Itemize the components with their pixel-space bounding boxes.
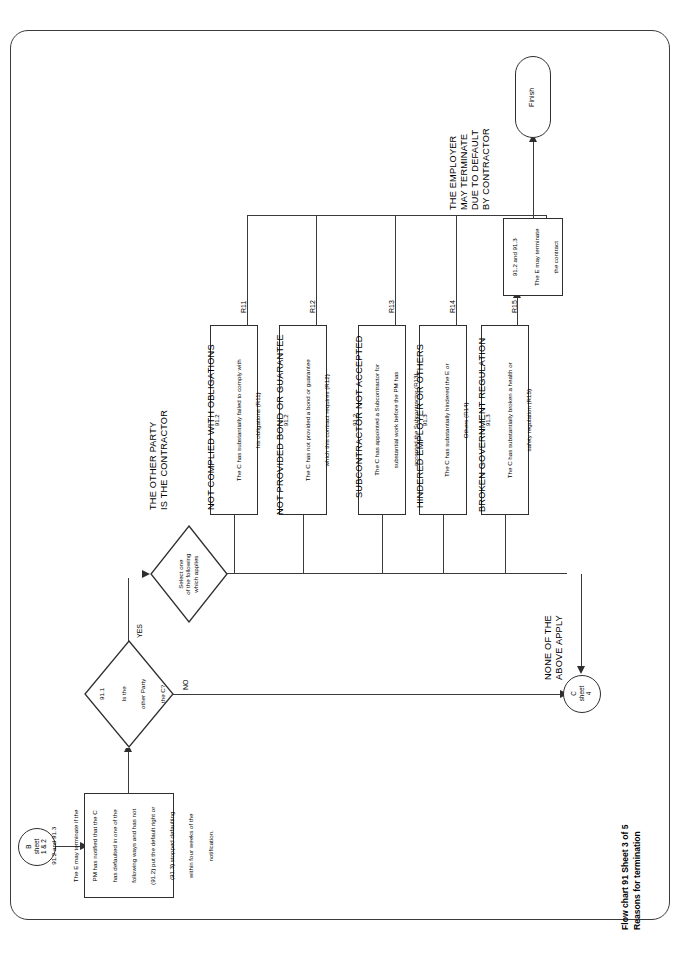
node-reason-r14: 91.3 The C has substantially hindered th… bbox=[419, 325, 467, 515]
label-none-of-the-above: NONE OF THE ABOVE APPLY bbox=[543, 615, 565, 680]
node-intro: 91.2 and 91.3 The E may terminate if the… bbox=[84, 793, 174, 898]
label-no: NO bbox=[182, 680, 190, 691]
page-caption: Flow chart 91 Sheet 3 of 5 Reasons for t… bbox=[620, 824, 643, 930]
decision-select-line1: Select one bbox=[178, 559, 185, 588]
r11-body: The C has substantially failed to comply… bbox=[235, 359, 261, 481]
node-intro-clause: 91.2 and 91.3 bbox=[50, 827, 57, 865]
node-finish-label: Finish bbox=[516, 57, 550, 137]
node-reason-r12-label: 91.2 The C has not provided a bond or gu… bbox=[280, 326, 326, 514]
heading-r13: SUBCONTRACTOR NOT ACCEPTED bbox=[354, 335, 365, 498]
decision-select-line3: which applies bbox=[193, 555, 200, 592]
label-other-party-is-contractor: THE OTHER PARTY IS THE CONTRACTOR bbox=[148, 410, 170, 510]
page-frame bbox=[10, 30, 670, 920]
bus-select-to-reasons bbox=[227, 573, 567, 574]
connector-c: C sheet 4 bbox=[563, 675, 601, 713]
heading-r14: HINDERED EMPLOYER OR OTHERS bbox=[415, 344, 426, 508]
finish-text: Finish bbox=[529, 87, 538, 106]
node-finish: Finish bbox=[515, 56, 551, 138]
node-decision-select: Select one of the following which applie… bbox=[150, 525, 228, 623]
node-terminate: 91.2 and 91.3 The E may terminate the co… bbox=[503, 218, 563, 296]
arrow-none-into-connector-c bbox=[577, 666, 585, 674]
r14-body: The C has substantially hindered the E o… bbox=[444, 363, 470, 477]
link-intro-to-decision bbox=[128, 748, 129, 794]
r15-body: The C has substantially broken a health … bbox=[506, 362, 532, 478]
arrow-yes-to-select bbox=[142, 570, 150, 578]
caption-line2: Reasons for termination bbox=[632, 831, 642, 930]
link-no-branch bbox=[173, 694, 565, 695]
flowchart-page: B sheet 1 & 2 91.2 and 91.3 The E may te… bbox=[0, 0, 700, 980]
link-terminate-to-finish bbox=[533, 140, 534, 219]
connector-c-line2: sheet bbox=[578, 686, 585, 702]
link-yes-branch bbox=[128, 578, 129, 641]
connector-b-line2: sheet bbox=[33, 839, 40, 855]
terminate-body: The E may terminate the contract bbox=[534, 228, 560, 285]
node-reason-r15: 91.3 The C has substantially broken a he… bbox=[481, 325, 529, 515]
node-reason-r13: 91.2 The C has appointed a Subcontractor… bbox=[358, 325, 406, 515]
node-reason-r13-label: 91.2 The C has appointed a Subcontractor… bbox=[359, 326, 405, 514]
link-none-to-connector-c bbox=[581, 574, 582, 671]
connector-b-id: B bbox=[25, 845, 32, 849]
node-reason-r12: 91.2 The C has not provided a bond or gu… bbox=[279, 325, 327, 515]
decision-party-body: Is the other Party the C? bbox=[120, 679, 165, 709]
node-terminate-label: 91.2 and 91.3 The E may terminate the co… bbox=[504, 219, 562, 295]
connector-c-line3: 4 bbox=[586, 692, 593, 696]
label-employer-may-terminate: THE EMPLOYER MAY TERMINATE DUE TO DEFAUL… bbox=[448, 128, 491, 210]
node-reason-r14-label: 91.3 The C has substantially hindered th… bbox=[420, 326, 466, 514]
terminate-clause: 91.2 and 91.3 bbox=[512, 238, 519, 276]
label-yes: YES bbox=[136, 624, 144, 638]
node-reason-r15-label: 91.3 The C has substantially broken a he… bbox=[482, 326, 528, 514]
connector-c-id: C bbox=[570, 692, 577, 697]
collector-stem-r13 bbox=[395, 215, 396, 326]
collector-stem-r12 bbox=[316, 215, 317, 326]
decision-party-clause: 91.1 bbox=[98, 688, 105, 700]
heading-r12: NOT PROVIDED BOND OR GUARANTEE bbox=[275, 334, 286, 515]
node-intro-label: 91.2 and 91.3 The E may terminate if the… bbox=[85, 794, 173, 897]
node-decision-select-label: Select one of the following which applie… bbox=[150, 525, 228, 623]
decision-select-line2: of the following bbox=[185, 553, 192, 594]
connector-c-label: C sheet 4 bbox=[564, 676, 600, 712]
node-decision-party: 91.1 Is the other Party the C? bbox=[84, 640, 174, 748]
r12-body: The C has not provided a bond or guarant… bbox=[304, 359, 330, 481]
caption-line1: Flow chart 91 Sheet 3 of 5 bbox=[620, 824, 630, 930]
heading-r15: BROKEN GOVERNMENT REGULATION bbox=[477, 338, 488, 512]
heading-r11: NOT COMPLIED WITH OBLIGATIONS bbox=[206, 344, 217, 510]
collector-stem-r11 bbox=[247, 215, 248, 326]
node-decision-party-label: 91.1 Is the other Party the C? bbox=[84, 640, 174, 748]
node-reason-r11-label: 91.2 The C has substantially failed to c… bbox=[211, 326, 257, 514]
collector-stem-r14 bbox=[456, 215, 457, 326]
link-r15-to-terminate bbox=[517, 296, 518, 326]
node-reason-r11: 91.2 The C has substantially failed to c… bbox=[210, 325, 258, 515]
collector-reasons-top bbox=[247, 215, 547, 216]
node-intro-body: The E may terminate if the PM has notifi… bbox=[72, 806, 213, 884]
